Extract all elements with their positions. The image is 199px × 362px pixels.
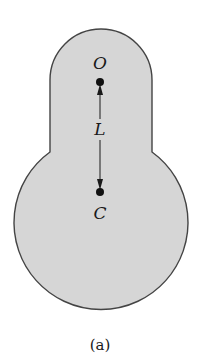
pendulum-diagram: O L C (a) (0, 0, 199, 362)
point-O-label: O (93, 53, 107, 73)
point-C-label: C (93, 203, 106, 223)
length-L-label: L (93, 119, 105, 139)
point-C-dot (96, 188, 104, 196)
point-O-dot (96, 78, 104, 86)
figure-caption: (a) (90, 336, 111, 354)
